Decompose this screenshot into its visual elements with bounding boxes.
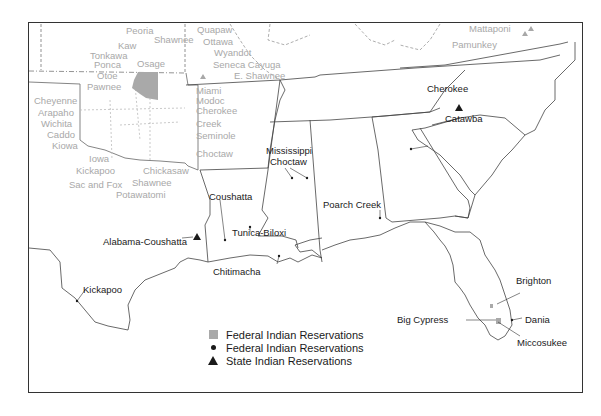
label-iowa: Iowa — [89, 154, 109, 164]
label-cherokee-ok: Cherokee — [196, 106, 237, 116]
label-poarch-creek: Poarch Creek — [323, 200, 381, 210]
legend-item-federal-point: Federal Indian Reservations — [206, 341, 364, 354]
gray-square-icon — [206, 330, 220, 339]
label-arapaho: Arapaho — [38, 108, 74, 118]
tennessee-north-border — [280, 55, 560, 80]
label-coushatta: Coushatta — [209, 192, 252, 202]
label-chickasaw: Chickasaw — [143, 166, 189, 176]
brighton-area — [490, 304, 493, 308]
label-quapaw: Quapaw — [197, 25, 232, 35]
label-seneca-cayuga: Seneca Cayuga — [213, 60, 281, 70]
label-mississippi-choctaw-line1: Mississippi — [266, 146, 312, 156]
label-e-shawnee: E. Shawnee — [234, 71, 285, 81]
label-chitimacha: Chitimacha — [213, 267, 261, 277]
georgia-border — [372, 112, 470, 218]
label-wyandot: Wyandot — [214, 48, 251, 58]
black-dot-icon — [206, 345, 220, 350]
label-dania: Dania — [525, 315, 550, 325]
osage-federal-area — [132, 72, 158, 100]
gulf-coast — [322, 222, 480, 250]
label-caddo: Caddo — [47, 130, 75, 140]
mattaponi-triangle — [528, 26, 534, 31]
legend-label: Federal Indian Reservations — [226, 329, 364, 341]
label-ottawa: Ottawa — [203, 37, 233, 47]
catawba-triangle — [455, 104, 463, 111]
label-peoria: Peoria — [126, 26, 153, 36]
louisiana-border — [200, 170, 322, 262]
label-pamunkey: Pamunkey — [452, 40, 497, 50]
black-triangle-icon — [206, 356, 220, 365]
label-potawatomi: Potawatomi — [116, 190, 166, 200]
legend-item-federal-area: Federal Indian Reservations — [206, 328, 364, 341]
sc-border — [412, 118, 525, 195]
label-otoe: Otoe — [97, 71, 118, 81]
label-shawnee-north: Shawnee — [154, 35, 194, 45]
label-miccosukee: Miccosukee — [517, 338, 567, 348]
label-seminole: Seminole — [196, 131, 236, 141]
label-big-cypress: Big Cypress — [397, 315, 448, 325]
label-kickapoo-ok: Kickapoo — [76, 166, 115, 176]
label-kiowa: Kiowa — [52, 141, 78, 151]
legend-label: Federal Indian Reservations — [226, 342, 364, 354]
label-shawnee-south: Shawnee — [132, 178, 172, 188]
alabama-coushatta-triangle — [193, 233, 201, 240]
label-choctaw-ok: Choctaw — [196, 149, 233, 159]
label-brighton: Brighton — [516, 276, 551, 286]
label-sac-and-fox: Sac and Fox — [69, 180, 122, 190]
label-creek: Creek — [196, 119, 221, 129]
label-alabama-coushatta: Alabama-Coushatta — [103, 237, 187, 247]
label-mississippi-choctaw-line2: Choctaw — [270, 157, 307, 167]
label-catawba: Catawba — [445, 114, 483, 124]
label-ponca: Ponca — [94, 60, 121, 70]
legend-item-state: State Indian Reservations — [206, 354, 364, 367]
label-wichita: Wichita — [41, 119, 72, 129]
e-shawnee-triangle — [200, 74, 206, 79]
label-cheyenne: Cheyenne — [34, 96, 77, 106]
label-pawnee: Pawnee — [87, 82, 121, 92]
label-cherokee-nc: Cherokee — [427, 84, 468, 94]
label-osage: Osage — [137, 59, 165, 69]
pamunkey-triangle — [522, 31, 528, 36]
legend-label: State Indian Reservations — [226, 355, 352, 367]
legend: Federal Indian Reservations Federal Indi… — [206, 328, 364, 367]
label-tunica-biloxi: Tunica-Biloxi — [232, 228, 286, 238]
label-mattaponi: Mattaponi — [469, 24, 511, 34]
label-kickapoo-tx: Kickapoo — [83, 285, 122, 295]
